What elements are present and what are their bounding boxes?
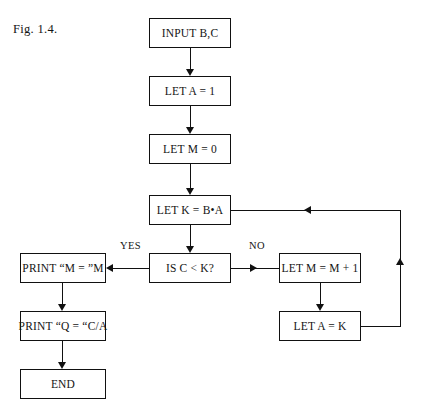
arrowhead-letm-to-letk-icon bbox=[186, 188, 194, 195]
connector-letmm1-to-letak bbox=[320, 283, 321, 304]
node-let-k-ba-label: LET K = B•A bbox=[157, 204, 223, 216]
arrowhead-input-to-leta-icon bbox=[186, 69, 194, 76]
arrowhead-leta-to-letm-icon bbox=[186, 127, 194, 134]
arrowhead-decision-yes-icon bbox=[106, 264, 113, 272]
edge-label-yes: YES bbox=[120, 240, 141, 251]
node-is-c-lt-k[interactable]: IS C < K? bbox=[149, 253, 231, 283]
node-let-a-k-label: LET A = K bbox=[293, 320, 346, 332]
connector-leta-to-letm bbox=[190, 106, 191, 127]
node-is-c-lt-k-label: IS C < K? bbox=[166, 262, 214, 274]
node-print-m[interactable]: PRINT “M = ”M bbox=[20, 253, 106, 283]
node-let-m-0[interactable]: LET M = 0 bbox=[149, 134, 231, 164]
edge-label-no: NO bbox=[249, 240, 265, 251]
node-let-a-k[interactable]: LET A = K bbox=[279, 311, 361, 341]
node-input-bc-label: INPUT B,C bbox=[162, 27, 219, 39]
node-print-m-label: PRINT “M = ”M bbox=[22, 262, 103, 274]
node-end-label: END bbox=[51, 378, 75, 390]
arrowhead-decision-no-icon bbox=[250, 264, 257, 272]
node-print-q[interactable]: PRINT “Q = “C/A bbox=[20, 311, 106, 341]
connector-input-to-leta bbox=[190, 48, 191, 69]
connector-printm-to-printq bbox=[62, 283, 63, 304]
node-end[interactable]: END bbox=[20, 369, 106, 399]
arrowhead-letmm1-to-letak-icon bbox=[316, 304, 324, 311]
node-let-k-ba[interactable]: LET K = B•A bbox=[149, 195, 231, 225]
arrowhead-letk-to-decision-icon bbox=[186, 246, 194, 253]
connector-letm-to-letk bbox=[190, 164, 191, 188]
arrowhead-printq-to-end-icon bbox=[58, 362, 66, 369]
connector-letk-to-decision bbox=[190, 225, 191, 246]
loop-segment-bottom bbox=[361, 326, 401, 327]
node-print-q-label: PRINT “Q = “C/A bbox=[19, 320, 108, 332]
node-let-a-1-label: LET A = 1 bbox=[165, 85, 216, 97]
node-let-m-0-label: LET M = 0 bbox=[163, 143, 217, 155]
connector-decision-yes bbox=[113, 268, 149, 269]
node-input-bc[interactable]: INPUT B,C bbox=[149, 18, 231, 48]
node-let-m-m-plus-1[interactable]: LET M = M + 1 bbox=[279, 253, 361, 283]
connector-printq-to-end bbox=[62, 341, 63, 362]
arrowhead-loop-into-letk-icon bbox=[304, 206, 311, 214]
loop-segment-top bbox=[231, 210, 401, 211]
node-let-m-m-plus-1-label: LET M = M + 1 bbox=[281, 262, 358, 274]
figure-caption: Fig. 1.4. bbox=[13, 22, 57, 37]
arrowhead-printm-to-printq-icon bbox=[58, 304, 66, 311]
arrowhead-loop-up-icon bbox=[396, 258, 404, 265]
node-let-a-1[interactable]: LET A = 1 bbox=[149, 76, 231, 106]
loop-segment-right bbox=[400, 210, 401, 327]
flowchart-figure: Fig. 1.4. INPUT B,C LET A = 1 LET M = 0 … bbox=[0, 0, 421, 415]
